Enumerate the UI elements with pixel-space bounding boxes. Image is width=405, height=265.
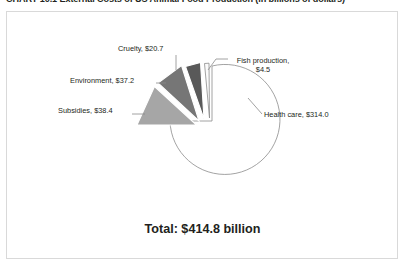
label-environment: Environment, $37.2 <box>70 76 134 85</box>
chart-figure: CHART 10.1 External Costs of US Animal F… <box>0 0 405 265</box>
total-label: Total: $414.8 billion <box>0 222 405 236</box>
label-fish-production: Fish production, $4.5 <box>230 56 296 74</box>
pie-slice-fish-production <box>205 63 210 118</box>
label-subsidies: Subsidies, $38.4 <box>58 106 113 115</box>
label-health-care: Health care, $314.0 <box>264 110 329 119</box>
label-cruelty: Cruelty, $20.7 <box>118 44 163 53</box>
